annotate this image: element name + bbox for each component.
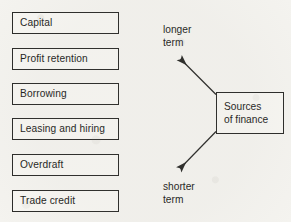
source-box-borrowing: Borrowing bbox=[12, 83, 119, 105]
arrow-to-longer-term-icon bbox=[181, 59, 217, 95]
source-box-label: Profit retention bbox=[13, 54, 88, 65]
source-box-leasing-and-hiring: Leasing and hiring bbox=[12, 118, 119, 140]
shorter-term-label: shorter term bbox=[163, 180, 195, 206]
sources-of-finance-box: Sources of finance bbox=[216, 92, 284, 134]
source-box-label: Capital bbox=[13, 18, 52, 29]
source-box-capital: Capital bbox=[12, 12, 119, 34]
arrow-to-shorter-term-icon bbox=[180, 132, 216, 169]
hub-label-line-2: of finance bbox=[224, 113, 268, 126]
source-box-trade-credit: Trade credit bbox=[12, 190, 119, 212]
sources-of-finance-diagram: Capital Profit retention Borrowing Leasi… bbox=[0, 0, 291, 222]
source-box-profit-retention: Profit retention bbox=[12, 48, 119, 70]
shorter-term-line-2: term bbox=[163, 193, 195, 206]
source-box-label: Trade credit bbox=[13, 196, 75, 207]
hub-label-line-1: Sources bbox=[224, 100, 261, 113]
shorter-term-line-1: shorter bbox=[163, 180, 195, 193]
longer-term-label: longer term bbox=[163, 23, 191, 49]
source-box-label: Borrowing bbox=[13, 89, 67, 100]
longer-term-line-1: longer bbox=[163, 23, 191, 36]
longer-term-line-2: term bbox=[163, 36, 191, 49]
source-box-label: Leasing and hiring bbox=[13, 124, 105, 135]
source-box-label: Overdraft bbox=[13, 160, 63, 171]
source-box-overdraft: Overdraft bbox=[12, 154, 119, 176]
